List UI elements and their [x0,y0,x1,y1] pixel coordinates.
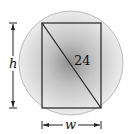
arrow-up-icon [11,24,15,30]
width-dimension: w [42,117,101,132]
arrow-right-icon [94,123,100,127]
arrow-left-icon [43,123,49,127]
height-label: h [9,56,17,71]
arrow-down-icon [11,101,15,107]
height-dimension: h [9,23,17,108]
circle [19,11,123,115]
diagonal-label: 24 [74,53,91,68]
inscribed-rectangle-diagram: 24 h w [0,0,131,134]
width-label: w [65,117,76,132]
